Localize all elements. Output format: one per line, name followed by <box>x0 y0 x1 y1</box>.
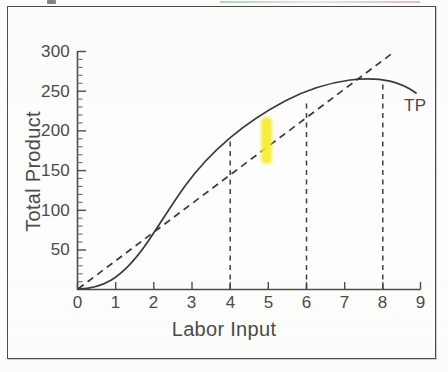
x-tick-label-3: 3 <box>176 293 207 313</box>
x-tick-label-5: 5 <box>253 293 284 313</box>
x-tick-label-8: 8 <box>367 293 398 313</box>
x-tick-label-0: 0 <box>62 293 93 313</box>
x-tick-label-4: 4 <box>215 293 246 313</box>
figure-page: 300 250 200 150 100 50 0 1 2 3 4 5 6 7 8… <box>0 0 448 372</box>
y-axis-title: Total Product <box>22 77 45 267</box>
tangent-ray-dashed <box>78 52 394 289</box>
y-axis-major-ticks <box>78 52 87 251</box>
series-label-tp: TP <box>404 96 427 116</box>
highlighter-mark <box>261 117 272 164</box>
x-tick-label-9: 9 <box>405 293 436 313</box>
x-tick-label-7: 7 <box>329 293 360 313</box>
x-tick-label-6: 6 <box>291 293 322 313</box>
x-tick-label-2: 2 <box>138 293 169 313</box>
x-axis-major-ticks <box>78 282 421 290</box>
total-product-curve <box>78 79 416 289</box>
y-tick-label-300: 300 <box>22 42 70 62</box>
x-axis-title: Labor Input <box>0 318 448 341</box>
x-tick-label-1: 1 <box>100 293 131 313</box>
